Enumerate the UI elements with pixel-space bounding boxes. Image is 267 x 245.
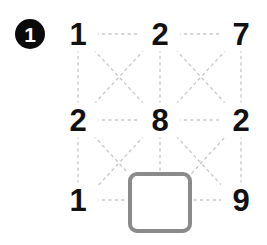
grid-cell-r2c1: 2 — [58, 103, 98, 138]
grid-cell-r3c1: 1 — [58, 183, 98, 218]
grid-cell-r2c2: 8 — [140, 103, 180, 138]
puzzle-figure: 1 — [0, 0, 267, 245]
grid-cell-r1c1: 1 — [58, 17, 98, 52]
answer-box-value — [132, 176, 188, 229]
grid-cell-r1c3: 7 — [221, 17, 261, 52]
grid-cell-r1c2: 2 — [140, 17, 180, 52]
grid-cell-r2c3: 2 — [221, 103, 261, 138]
answer-box[interactable] — [128, 172, 192, 233]
grid-cell-r3c3: 9 — [221, 183, 261, 218]
number-grid: 1 2 7 2 8 2 1 9 — [0, 0, 267, 245]
